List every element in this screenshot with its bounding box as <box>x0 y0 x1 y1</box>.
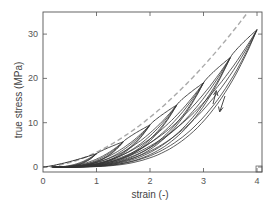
y-tick-label: 10 <box>28 118 38 128</box>
reloading-curve <box>59 58 231 167</box>
x-tick-label: 2 <box>147 176 152 186</box>
y-tick-label: 20 <box>28 73 38 83</box>
y-axis-label: true stress (MPa) <box>13 62 24 139</box>
x-tick-label: 3 <box>201 176 206 186</box>
unloading-curve <box>57 58 230 167</box>
x-tick-label: 0 <box>40 176 45 186</box>
axis-ticks: 012340102030 <box>28 12 262 186</box>
reloading-curve <box>60 30 257 167</box>
y-tick-label: 0 <box>33 162 38 172</box>
unloading-curve <box>59 30 258 167</box>
stress-strain-chart: 012340102030 strain (-) true stress (MPa… <box>0 0 277 210</box>
y-tick-label: 30 <box>28 29 38 39</box>
x-tick-label: 1 <box>94 176 99 186</box>
x-tick-label: 4 <box>254 176 259 186</box>
reloading-curve <box>57 83 203 167</box>
plot-curves <box>43 14 257 167</box>
x-axis-label: strain (-) <box>131 189 168 200</box>
